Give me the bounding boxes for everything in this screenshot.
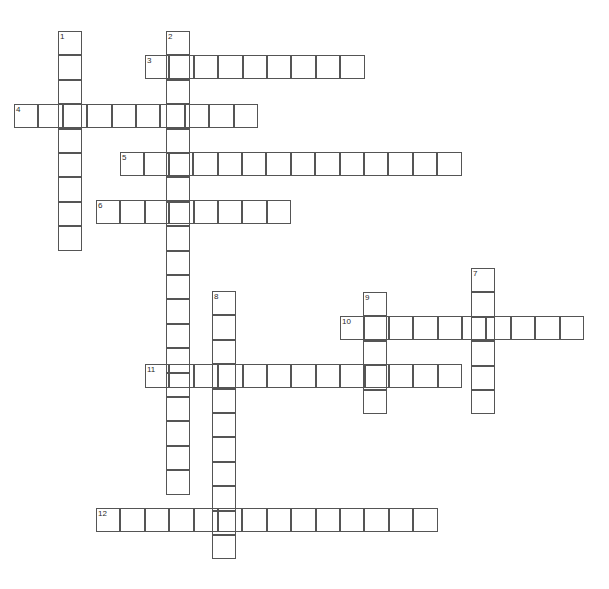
grid-cell[interactable] [193, 152, 217, 176]
grid-cell[interactable] [388, 152, 412, 176]
grid-cell[interactable] [145, 508, 169, 532]
grid-cell[interactable] [243, 364, 267, 388]
grid-cell[interactable] [462, 316, 486, 340]
grid-cell[interactable] [267, 364, 291, 388]
grid-cell[interactable] [212, 535, 236, 559]
grid-cell[interactable] [218, 55, 242, 79]
grid-cell[interactable] [413, 316, 437, 340]
grid-cell[interactable] [194, 508, 218, 532]
grid-cell[interactable] [194, 364, 218, 388]
grid-cell[interactable] [471, 390, 495, 414]
grid-cell[interactable] [413, 152, 437, 176]
grid-cell[interactable] [136, 104, 160, 128]
grid-cell[interactable] [212, 413, 236, 437]
grid-cell[interactable] [58, 153, 82, 177]
grid-cell[interactable] [340, 364, 364, 388]
grid-cell[interactable] [471, 268, 495, 292]
grid-cell[interactable] [87, 104, 111, 128]
grid-cell[interactable] [413, 364, 437, 388]
grid-cell[interactable] [14, 104, 38, 128]
grid-cell[interactable] [316, 364, 340, 388]
grid-cell[interactable] [63, 104, 87, 128]
grid-cell[interactable] [242, 152, 266, 176]
grid-cell[interactable] [120, 200, 144, 224]
grid-cell[interactable] [166, 299, 190, 323]
grid-cell[interactable] [316, 508, 340, 532]
grid-cell[interactable] [363, 341, 387, 365]
grid-cell[interactable] [438, 316, 462, 340]
grid-cell[interactable] [212, 291, 236, 315]
grid-cell[interactable] [112, 104, 136, 128]
grid-cell[interactable] [58, 129, 82, 153]
grid-cell[interactable] [243, 55, 267, 79]
grid-cell[interactable] [145, 200, 169, 224]
grid-cell[interactable] [160, 104, 184, 128]
grid-cell[interactable] [212, 437, 236, 461]
grid-cell[interactable] [437, 152, 461, 176]
grid-cell[interactable] [58, 226, 82, 250]
grid-cell[interactable] [291, 55, 315, 79]
grid-cell[interactable] [212, 486, 236, 510]
grid-cell[interactable] [145, 364, 169, 388]
grid-cell[interactable] [96, 508, 120, 532]
grid-cell[interactable] [194, 55, 218, 79]
grid-cell[interactable] [291, 508, 315, 532]
grid-cell[interactable] [471, 341, 495, 365]
grid-cell[interactable] [166, 470, 190, 494]
grid-cell[interactable] [218, 152, 242, 176]
grid-cell[interactable] [120, 508, 144, 532]
grid-cell[interactable] [364, 316, 388, 340]
grid-cell[interactable] [511, 316, 535, 340]
grid-cell[interactable] [38, 104, 62, 128]
grid-cell[interactable] [316, 55, 340, 79]
grid-cell[interactable] [166, 80, 190, 104]
grid-cell[interactable] [169, 364, 193, 388]
grid-cell[interactable] [145, 55, 169, 79]
grid-cell[interactable] [364, 152, 388, 176]
grid-cell[interactable] [194, 200, 218, 224]
grid-cell[interactable] [58, 202, 82, 226]
grid-cell[interactable] [212, 315, 236, 339]
grid-cell[interactable] [471, 366, 495, 390]
grid-cell[interactable] [212, 462, 236, 486]
grid-cell[interactable] [218, 364, 242, 388]
grid-cell[interactable] [209, 104, 233, 128]
crossword-grid[interactable]: 123456789101112 [0, 0, 609, 589]
grid-cell[interactable] [315, 152, 339, 176]
grid-cell[interactable] [166, 129, 190, 153]
grid-cell[interactable] [389, 508, 413, 532]
grid-cell[interactable] [212, 389, 236, 413]
grid-cell[interactable] [364, 508, 388, 532]
grid-cell[interactable] [166, 226, 190, 250]
grid-cell[interactable] [340, 508, 364, 532]
grid-cell[interactable] [363, 292, 387, 316]
grid-cell[interactable] [166, 275, 190, 299]
grid-cell[interactable] [166, 31, 190, 55]
grid-cell[interactable] [560, 316, 584, 340]
grid-cell[interactable] [218, 508, 242, 532]
grid-cell[interactable] [242, 200, 266, 224]
grid-cell[interactable] [166, 251, 190, 275]
grid-cell[interactable] [169, 55, 193, 79]
grid-cell[interactable] [535, 316, 559, 340]
grid-cell[interactable] [291, 364, 315, 388]
grid-cell[interactable] [169, 508, 193, 532]
grid-cell[interactable] [169, 200, 193, 224]
grid-cell[interactable] [413, 508, 437, 532]
grid-cell[interactable] [340, 55, 364, 79]
grid-cell[interactable] [166, 397, 190, 421]
grid-cell[interactable] [58, 31, 82, 55]
grid-cell[interactable] [144, 152, 168, 176]
grid-cell[interactable] [166, 446, 190, 470]
grid-cell[interactable] [96, 200, 120, 224]
grid-cell[interactable] [166, 421, 190, 445]
grid-cell[interactable] [267, 508, 291, 532]
grid-cell[interactable] [340, 152, 364, 176]
grid-cell[interactable] [166, 177, 190, 201]
grid-cell[interactable] [471, 292, 495, 316]
grid-cell[interactable] [389, 364, 413, 388]
grid-cell[interactable] [438, 364, 462, 388]
grid-cell[interactable] [242, 508, 266, 532]
grid-cell[interactable] [185, 104, 209, 128]
grid-cell[interactable] [340, 316, 364, 340]
